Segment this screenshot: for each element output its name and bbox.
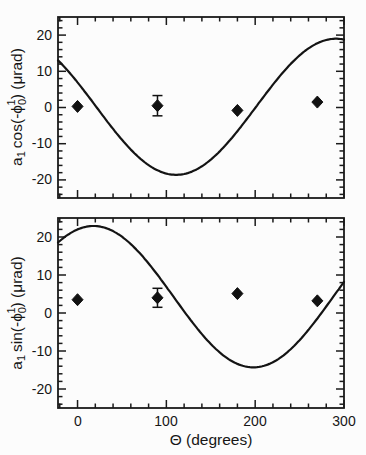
y-axis-title-bottom: a1sin(-ϕ01) (μrad) bbox=[5, 256, 28, 369]
y-tick-label: -20 bbox=[32, 171, 52, 187]
y-tick-label: -10 bbox=[32, 343, 52, 359]
y-tick-label: 0 bbox=[44, 99, 52, 115]
x-tick-label: 0 bbox=[74, 413, 82, 429]
data-point-diamond bbox=[152, 292, 163, 304]
x-tick-label: 200 bbox=[243, 413, 267, 429]
y-tick-label: -10 bbox=[32, 135, 52, 151]
label-fn: sin(- bbox=[8, 322, 25, 352]
y-tick-label: 10 bbox=[36, 267, 52, 283]
x-axis-title: Θ (degrees) bbox=[170, 431, 253, 448]
y-axis-title-top: a1cos(-ϕ01) (μrad) bbox=[5, 48, 28, 166]
label-base-sub: 1 bbox=[15, 355, 27, 361]
data-point-diamond bbox=[72, 294, 83, 306]
bottom-panel-frame bbox=[58, 218, 344, 408]
data-point-diamond bbox=[312, 96, 323, 108]
data-point-diamond bbox=[152, 100, 163, 112]
data-point-diamond bbox=[312, 295, 323, 307]
y-tick-label: 20 bbox=[36, 27, 52, 43]
data-point-diamond bbox=[72, 100, 83, 112]
label-units: ) (μrad) bbox=[8, 48, 25, 99]
x-tick-label: 100 bbox=[154, 413, 178, 429]
figure: 20 10 0 -10 -20 20 10 0 -10 -20 0 100 20… bbox=[0, 0, 366, 455]
model-curve bbox=[58, 39, 344, 175]
label-base-sub: 1 bbox=[15, 151, 27, 157]
x-tick-label: 300 bbox=[332, 413, 356, 429]
data-point-diamond bbox=[232, 104, 243, 116]
y-tick-label: -20 bbox=[32, 381, 52, 397]
y-tick-label: 10 bbox=[36, 63, 52, 79]
y-tick-label: 20 bbox=[36, 229, 52, 245]
plot-svg: 20 10 0 -10 -20 20 10 0 -10 -20 0 100 20… bbox=[0, 0, 366, 455]
label-units: ) (μrad) bbox=[8, 256, 25, 307]
model-curve bbox=[58, 226, 344, 367]
label-fn: cos(- bbox=[8, 114, 25, 148]
y-tick-label: 0 bbox=[44, 305, 52, 321]
data-point-diamond bbox=[232, 288, 243, 300]
chart-marks bbox=[58, 17, 344, 408]
top-panel-frame bbox=[58, 17, 344, 198]
